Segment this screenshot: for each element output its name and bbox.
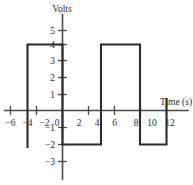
x-tick-labels: −6 −4 −2 0 2 4 6 8 10 12 (5, 118, 175, 128)
x-tick-label: 2 (77, 118, 82, 128)
x-tick-label: 8 (134, 118, 139, 128)
x-tick-label: −6 (5, 118, 15, 128)
y-tick-label: 5 (50, 26, 55, 36)
y-axis-title: Volts (52, 4, 72, 14)
y-tick-label: −3 (45, 157, 55, 167)
x-axis-title: Time (s) (160, 97, 192, 108)
x-tick-label-origin: 0 (55, 118, 60, 128)
waveform-plot: Volts Time (s) −6 −4 −2 0 2 4 6 8 10 12 … (0, 0, 193, 185)
y-tick-labels: 5 4 3 2 1 −1 −2 −3 (45, 26, 55, 167)
y-tick-label: −1 (45, 123, 55, 133)
x-tick-label: −4 (22, 118, 32, 128)
y-tick-label: 2 (50, 73, 55, 83)
x-tick-label: 6 (112, 118, 117, 128)
y-tick-label: 1 (50, 90, 55, 100)
waveform-figure: Volts Time (s) −6 −4 −2 0 2 4 6 8 10 12 … (0, 0, 193, 185)
x-tick-label: 12 (165, 118, 175, 128)
y-tick-label: −2 (45, 140, 55, 150)
x-tick-label: 10 (147, 118, 157, 128)
x-tick-label: 4 (95, 118, 100, 128)
y-tick-label: 3 (50, 56, 55, 66)
y-tick-label: 4 (50, 40, 55, 50)
